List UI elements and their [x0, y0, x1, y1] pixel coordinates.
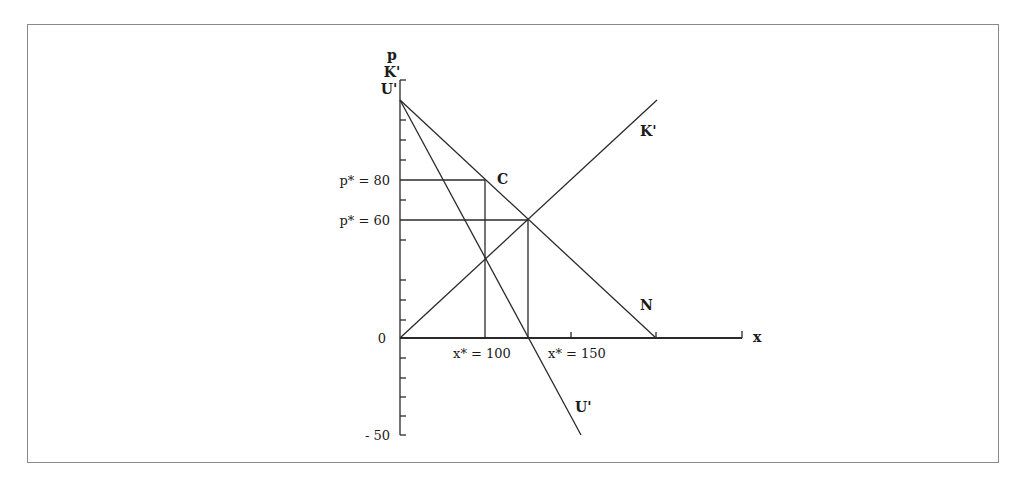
y-axis-ticks — [400, 80, 406, 435]
y-axis-label-k: K' — [384, 64, 400, 80]
y-tick-label-neg50: - 50 — [365, 428, 390, 443]
curve-label-n: N — [640, 297, 653, 313]
curve-label-k-prime: K' — [640, 123, 656, 139]
x-tick-label-x150: x* = 150 — [548, 346, 606, 361]
x-axis-ticks — [571, 331, 742, 338]
point-label-c: C — [497, 171, 508, 187]
x-axis-label: x — [753, 329, 762, 345]
economics-diagram: p K' U' x p* = 80 p* = 60 0 - 50 x* = 10… — [0, 0, 1026, 491]
curve-u-prime — [400, 100, 581, 435]
y-tick-label-zero: 0 — [378, 331, 386, 346]
y-tick-label-p60: p* = 60 — [339, 213, 390, 228]
y-axis-label-p: p — [387, 47, 397, 63]
x-tick-label-x100: x* = 100 — [453, 346, 511, 361]
y-tick-label-p80: p* = 80 — [339, 173, 390, 188]
y-axis-label-u: U' — [381, 81, 398, 97]
curve-label-u-prime: U' — [575, 399, 592, 415]
